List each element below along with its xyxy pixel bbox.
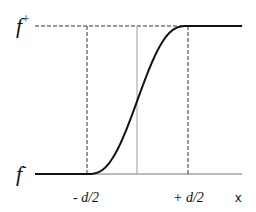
sigmoid-curve [35,26,242,174]
left-mark-label: - d/2 [73,190,99,205]
right-mark-label: + d/2 [173,190,204,205]
axis-label-x: x [235,190,242,205]
upper-level-sup: + [22,11,29,26]
lower-level-label: f- [16,159,26,186]
diagram-canvas: f+ f- - d/2 + d/2 x [0,0,256,212]
upper-level-label: f+ [16,11,29,38]
lower-level-sup: - [22,159,26,174]
